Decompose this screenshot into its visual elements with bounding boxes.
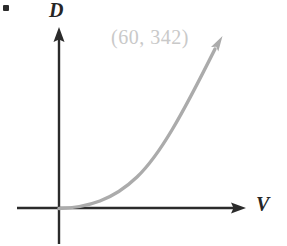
curve-arrowhead bbox=[211, 36, 223, 52]
point-coordinate-annotation: (60, 342) bbox=[111, 27, 189, 47]
y-axis-label: D bbox=[49, 0, 63, 20]
graph-figure: D V (60, 342) bbox=[0, 0, 287, 246]
x-axis-label: V bbox=[256, 194, 269, 214]
growth-curve bbox=[59, 49, 215, 209]
